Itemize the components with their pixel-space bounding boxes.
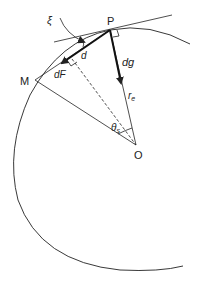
xi-pointer xyxy=(60,18,84,42)
label-p: P xyxy=(107,15,114,27)
label-d: d xyxy=(81,50,87,61)
label-df: dF xyxy=(54,69,67,80)
label-r: re xyxy=(128,90,135,102)
right-angle-mark-pm xyxy=(67,60,77,66)
circle-arc xyxy=(14,28,190,271)
label-dg: dg xyxy=(122,56,135,68)
label-m: M xyxy=(20,75,29,87)
label-xi: ξ xyxy=(47,14,53,27)
label-o: O xyxy=(134,149,143,161)
geometry-diagram: P M O ξ d dF dg re θs xyxy=(0,0,202,287)
theta-angle-arc xyxy=(118,128,132,134)
label-theta: θs xyxy=(111,122,120,134)
right-angle-mark-p xyxy=(113,30,119,37)
dg-arrow xyxy=(110,30,121,83)
line-mo xyxy=(35,80,136,145)
